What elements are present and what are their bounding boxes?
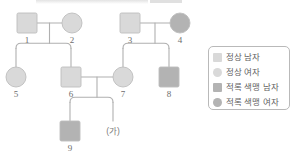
individual-label-8: 8: [159, 89, 179, 99]
unknown-offspring-label: (가): [100, 126, 126, 136]
individual-label-6: 6: [61, 89, 81, 99]
individual-5-female-normal: [6, 67, 26, 87]
individual-label-3: 3: [120, 35, 140, 45]
individual-label-1: 1: [17, 35, 37, 45]
individual-8-male-affected: [159, 67, 179, 87]
normal-female-circle-icon: [213, 68, 222, 77]
individual-label-7: 7: [113, 89, 133, 99]
legend-item-colorblind-female: 적록 색맹 여자: [213, 95, 279, 109]
colorblind-male-square-icon: [213, 83, 222, 92]
individual-label-9: 9: [60, 143, 80, 153]
individual-label-2: 2: [62, 35, 82, 45]
legend-item-normal-female: 정상 여자: [213, 65, 260, 79]
individual-6-male-normal: [61, 67, 81, 87]
legend-item-colorblind-male: 적록 색맹 남자: [213, 80, 279, 94]
legend: 정상 남자 정상 여자 적록 색맹 남자 적록 색맹 여자: [208, 46, 290, 110]
legend-item-normal-male: 정상 남자: [213, 50, 260, 64]
individual-label-5: 5: [6, 89, 26, 99]
legend-label-colorblind-female: 적록 색맹 여자: [226, 98, 279, 107]
individual-9-male-affected: [60, 121, 80, 141]
individual-4-female-affected: [170, 13, 190, 33]
individual-label-4: 4: [170, 35, 190, 45]
legend-label-colorblind-male: 적록 색맹 남자: [226, 83, 279, 92]
individual-1-male-normal: [17, 13, 37, 33]
colorblind-female-circle-icon: [213, 98, 222, 107]
individual-2-female-normal: [62, 13, 82, 33]
individual-3-male-normal: [120, 13, 140, 33]
legend-label-normal-female: 정상 여자: [226, 68, 260, 77]
connector-lines: [16, 23, 170, 121]
individual-7-female-normal: [113, 67, 133, 87]
legend-label-normal-male: 정상 남자: [226, 53, 260, 62]
normal-male-square-icon: [213, 53, 222, 62]
pedigree-chart: 123456789(가) 정상 남자 정상 여자 적록 색맹 남자 적록 색맹 …: [0, 0, 296, 160]
